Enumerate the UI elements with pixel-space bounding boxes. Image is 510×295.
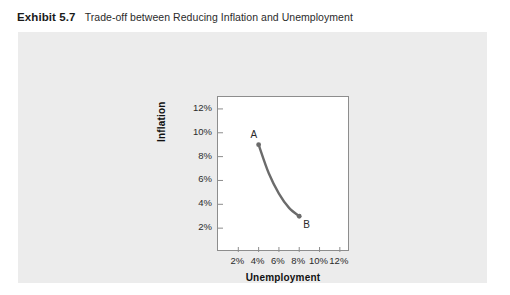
point-label-b: B <box>303 220 310 230</box>
y-axis-tick-labels: 2%4%6%8%10%12% <box>174 96 212 251</box>
plot-svg <box>218 97 350 252</box>
y-tick-label: 10% <box>178 127 212 137</box>
exhibit-header: Exhibit 5.7Trade-off between Reducing In… <box>17 9 353 24</box>
data-point-marker-b <box>297 214 302 219</box>
y-axis-title: Inflation <box>156 101 167 142</box>
x-axis-tick-labels: 2%4%6%8%10%12% <box>217 255 349 269</box>
y-tick-label: 2% <box>178 222 212 232</box>
curve-layer <box>256 142 301 218</box>
data-point-marker-a <box>256 142 261 147</box>
phillips-curve-line <box>259 145 300 217</box>
plot-area: AB <box>217 96 349 251</box>
x-tick-label: 12% <box>323 255 355 266</box>
exhibit-caption: Trade-off between Reducing Inflation and… <box>85 11 353 23</box>
axis-tick-marks <box>218 109 340 252</box>
y-tick-label: 6% <box>178 174 212 184</box>
x-axis-title: Unemployment <box>217 272 349 283</box>
figure-panel: Inflation 2%4%6%8%10%12% AB 2%4%6%8%10%1… <box>18 32 487 283</box>
y-tick-label: 4% <box>178 198 212 208</box>
point-label-a: A <box>251 130 258 140</box>
y-tick-label: 12% <box>178 103 212 113</box>
phillips-curve-chart: Inflation 2%4%6%8%10%12% AB 2%4%6%8%10%1… <box>148 48 368 273</box>
exhibit-label: Exhibit 5.7 <box>17 11 76 23</box>
y-tick-label: 8% <box>178 151 212 161</box>
